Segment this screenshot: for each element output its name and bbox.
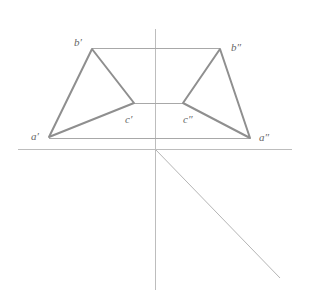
- label-b-prime: b′: [74, 37, 82, 48]
- front-view-triangle: [49, 49, 134, 137]
- projection-diagram: b′ c′ a′ b″ c″ a″: [0, 0, 309, 295]
- label-c-double-prime: c″: [183, 114, 192, 125]
- label-a-double-prime: a″: [259, 132, 269, 143]
- side-view-triangle: [183, 49, 250, 138]
- label-c-prime: c′: [125, 114, 132, 125]
- 45-degree-line: [156, 150, 280, 278]
- label-b-double-prime: b″: [231, 42, 241, 53]
- label-a-prime: a′: [31, 131, 39, 142]
- diagram-svg: [0, 0, 309, 295]
